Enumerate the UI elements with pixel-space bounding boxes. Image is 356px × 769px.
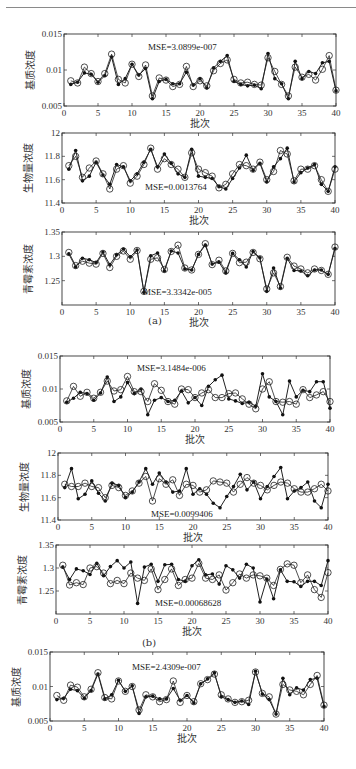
x-tick-label: 15 [148, 723, 158, 733]
x-tick-label: 25 [217, 723, 227, 733]
y-axis-label: 基质浓度 [10, 667, 22, 707]
y-tick-label: 0.005 [28, 716, 49, 726]
x-tick-label: 40 [320, 723, 330, 733]
x-tick-label: 10 [114, 723, 124, 733]
x-tick-label: 35 [285, 723, 295, 733]
y-tick-label: 0.01 [32, 682, 48, 692]
line-chart-7: 05101520253035400.0050.010.015基质浓度批次MSE=… [0, 0, 356, 769]
x-tick-label: 0 [48, 723, 53, 733]
y-tick-label: 0.015 [28, 647, 49, 657]
x-axis-label: 批次 [177, 732, 197, 744]
caption-b: (b) [134, 637, 164, 648]
data-point-actual [281, 676, 285, 680]
data-point-predicted [54, 692, 60, 698]
caption-a: (a) [140, 315, 170, 326]
x-tick-label: 30 [251, 723, 261, 733]
x-tick-label: 20 [183, 723, 193, 733]
x-tick-label: 5 [82, 723, 87, 733]
data-point-actual [240, 699, 244, 703]
data-point-actual [172, 687, 176, 691]
mse-annotation: MSE=2.4309e-007 [132, 662, 201, 672]
